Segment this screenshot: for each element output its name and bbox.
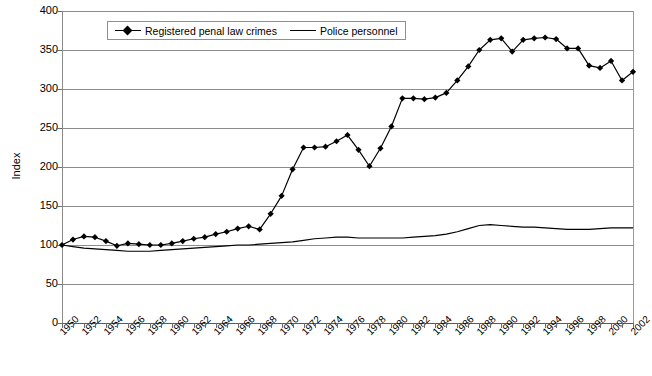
legend-marker-line-icon: [290, 26, 316, 36]
data-point-marker: [202, 234, 208, 240]
data-point-marker: [531, 35, 537, 41]
data-point-marker: [180, 238, 186, 244]
data-point-marker: [388, 123, 394, 129]
data-point-marker: [114, 243, 120, 249]
legend-item-crimes: Registered penal law crimes: [115, 25, 277, 37]
data-point-marker: [432, 94, 438, 100]
legend-marker-diamond-icon: [115, 26, 141, 36]
data-point-marker: [224, 229, 230, 235]
data-point-marker: [311, 144, 317, 150]
chart-legend: Registered penal law crimes Police perso…: [107, 21, 406, 40]
data-point-marker: [213, 231, 219, 237]
data-point-marker: [191, 236, 197, 242]
data-point-marker: [597, 65, 603, 71]
data-point-marker: [81, 233, 87, 239]
data-point-marker: [147, 242, 153, 248]
data-point-marker: [70, 236, 76, 242]
data-point-marker: [235, 226, 241, 232]
data-point-marker: [169, 240, 175, 246]
data-point-marker: [103, 238, 109, 244]
data-point-marker: [399, 95, 405, 101]
data-point-marker: [421, 96, 427, 102]
series-line-crimes: [62, 38, 633, 246]
data-point-marker: [125, 240, 131, 246]
data-point-marker: [377, 145, 383, 151]
data-point-marker: [586, 63, 592, 69]
series-line-police: [62, 225, 633, 252]
data-point-marker: [333, 138, 339, 144]
data-point-marker: [410, 95, 416, 101]
data-point-marker: [322, 144, 328, 150]
data-point-marker: [158, 242, 164, 248]
legend-label-police: Police personnel: [320, 25, 398, 37]
data-point-marker: [92, 234, 98, 240]
data-point-marker: [608, 58, 614, 64]
data-point-marker: [246, 223, 252, 229]
data-point-marker: [300, 144, 306, 150]
data-point-marker: [542, 34, 548, 40]
data-point-marker: [279, 193, 285, 199]
data-point-marker: [136, 241, 142, 247]
legend-item-police: Police personnel: [290, 25, 398, 37]
legend-label-crimes: Registered penal law crimes: [145, 25, 277, 37]
data-point-marker: [289, 166, 295, 172]
data-point-marker: [575, 45, 581, 51]
